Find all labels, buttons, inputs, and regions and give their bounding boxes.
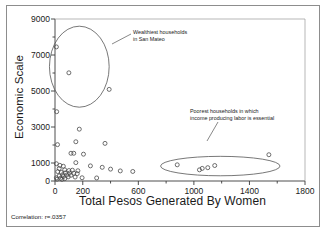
scatter-plot-figure: Economic Scale Total Pesos Generated By …	[0, 0, 327, 234]
data-point	[67, 71, 71, 75]
data-point	[77, 127, 81, 131]
x-tick-label: 200	[63, 186, 103, 196]
data-point	[118, 169, 122, 173]
data-point	[74, 140, 78, 144]
annotation-poorest-households: Poorest households in which income produ…	[190, 108, 300, 123]
data-point	[74, 161, 78, 165]
data-point	[107, 87, 111, 91]
data-point	[73, 175, 77, 179]
annotation-wealthiest-households: Wealthiest households in San Mateo	[133, 29, 205, 44]
x-tick-label: 1000	[174, 186, 214, 196]
data-point	[88, 164, 92, 168]
leader-line-poorest	[207, 122, 218, 141]
data-point	[131, 169, 135, 173]
data-point	[213, 164, 217, 168]
data-point	[267, 153, 271, 157]
data-point	[175, 163, 179, 167]
data-point	[72, 151, 76, 155]
annotation-shape-group	[49, 26, 280, 176]
x-tick-label: 1400	[229, 186, 269, 196]
y-tick-label: 7000	[16, 50, 50, 60]
y-tick-label: 1000	[16, 158, 50, 168]
data-point	[95, 176, 99, 180]
x-tick-label: 600	[118, 186, 158, 196]
y-tick-label: 3000	[16, 122, 50, 132]
x-tick-label: 1800	[285, 186, 325, 196]
leader-line-wealthiest	[112, 34, 131, 44]
annotation-leader-group	[112, 34, 218, 141]
data-point	[109, 167, 113, 171]
data-point	[81, 152, 85, 156]
data-point	[80, 176, 84, 180]
data-point	[103, 141, 107, 145]
data-point	[100, 165, 104, 169]
y-tick-label: 9000	[16, 14, 50, 24]
y-tick-label: 5000	[16, 86, 50, 96]
data-point	[56, 143, 60, 147]
data-point	[206, 166, 210, 170]
group-circle-wealthiest	[49, 26, 109, 107]
y-tick-label: 0	[16, 176, 50, 186]
